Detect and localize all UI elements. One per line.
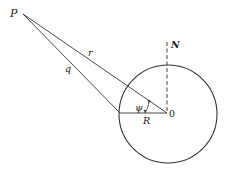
label-N: N [170, 39, 180, 50]
line-q [23, 14, 120, 113]
line-r [23, 14, 167, 113]
label-P: P [9, 7, 18, 20]
label-R: R [142, 115, 150, 126]
label-r: r [88, 47, 94, 58]
label-q: q [65, 63, 71, 74]
geometry-diagram: P r q N ψ R 0 [0, 0, 230, 171]
label-psi: ψ [135, 102, 143, 113]
circle [119, 65, 217, 163]
label-O: 0 [169, 108, 175, 119]
